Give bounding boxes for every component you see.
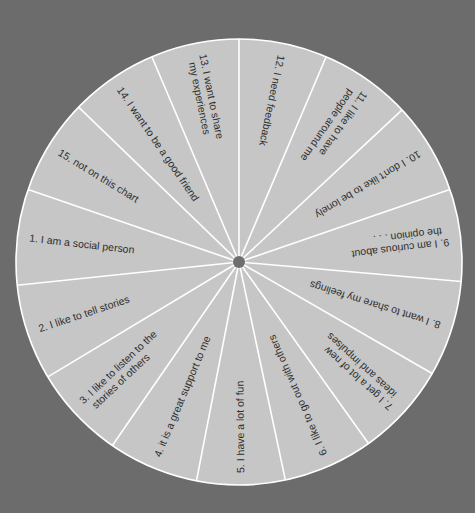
wheel-diagram: 12. I need feedback11. I like to havepeo… bbox=[0, 0, 475, 513]
segment-label-text: 5. I have a lot of fun bbox=[233, 381, 246, 473]
center-hub-dot bbox=[233, 256, 245, 268]
wheel-svg: 12. I need feedback11. I like to havepeo… bbox=[0, 0, 475, 513]
segment-5: 5. I have a lot of fun bbox=[233, 381, 246, 473]
